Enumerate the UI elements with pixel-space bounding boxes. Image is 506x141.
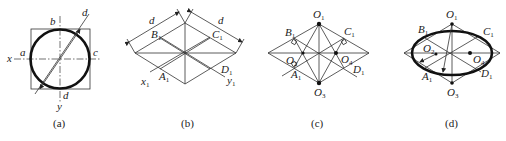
label-x1: x1	[140, 75, 150, 89]
label-O2: O2	[423, 42, 435, 56]
label-D1: D1	[480, 67, 493, 81]
label-A1: A1	[290, 68, 302, 82]
diameter-line	[35, 14, 89, 94]
label-O1: O1	[446, 8, 458, 22]
figure-canvas: b d a c x d y (a) d d B1 C1 A1 D1 x1 y1 …	[0, 0, 506, 141]
point-O2	[301, 51, 304, 54]
point-O3	[317, 81, 321, 85]
label-d-bottom: d	[63, 89, 69, 101]
panel-c: O1 B1 C1 O2 O4 A1 D1 O3 (c)	[268, 8, 369, 130]
ext-line-top-right	[185, 9, 193, 23]
label-O3: O3	[314, 86, 326, 100]
label-C1: C1	[344, 25, 355, 39]
label-O4: O4	[341, 53, 353, 67]
label-B1: B1	[418, 23, 429, 37]
point-O3	[450, 81, 454, 85]
label-d-top: d	[82, 6, 88, 18]
caption-b: (b)	[181, 117, 194, 130]
label-b: b	[50, 15, 56, 27]
caption-d: (d)	[445, 117, 458, 130]
panel-b: d d B1 C1 A1 D1 x1 y1 (b)	[127, 9, 244, 130]
caption-a: (a)	[53, 117, 66, 130]
label-O2: O2	[286, 54, 298, 68]
label-D1: D1	[352, 63, 365, 77]
point-O4	[468, 51, 472, 55]
point-O4	[334, 51, 338, 55]
label-O4: O4	[473, 53, 485, 67]
label-A1: A1	[158, 70, 170, 84]
y1-axis	[160, 37, 225, 77]
right-angle-C1	[341, 39, 346, 44]
label-y1: y1	[226, 74, 236, 88]
caption-c: (c)	[311, 117, 324, 130]
label-B1: B1	[151, 28, 162, 42]
x1-axis	[150, 37, 210, 72]
label-d-right: d	[218, 14, 224, 26]
point-O1	[450, 22, 454, 26]
diameter-arrow-top	[60, 30, 80, 60]
point-O2	[435, 53, 438, 56]
ext-line-top-left	[177, 9, 185, 23]
label-O1: O1	[313, 8, 325, 22]
label-a: a	[20, 46, 26, 58]
label-d-left: d	[149, 14, 155, 26]
panel-a: b d a c x d y (a)	[6, 6, 100, 130]
diameter-arrow-bottom	[40, 59, 60, 89]
label-B1: B1	[285, 26, 296, 40]
point-O1	[317, 22, 321, 26]
panel-d: O1 B1 C1 O2 O4 A1 D1 O3 (d)	[404, 8, 500, 130]
label-x: x	[6, 52, 12, 64]
label-c: c	[93, 46, 98, 58]
right-angle-B1	[291, 39, 296, 44]
label-C1: C1	[483, 25, 494, 39]
label-y: y	[56, 100, 62, 112]
label-O3: O3	[447, 86, 459, 100]
